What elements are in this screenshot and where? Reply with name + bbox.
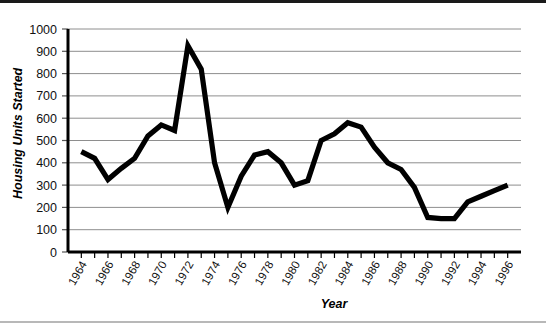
gridlines-group bbox=[68, 29, 521, 230]
line-chart: 01002003004005006007008009001000 1964196… bbox=[0, 3, 546, 323]
x-tick-label: 1994 bbox=[466, 258, 489, 287]
x-tick-label: 1992 bbox=[439, 259, 462, 287]
data-series-line bbox=[81, 46, 507, 219]
y-tick-label: 600 bbox=[36, 112, 57, 126]
y-axis-title: Housing Units Started bbox=[11, 67, 25, 199]
x-tick-label: 1976 bbox=[226, 259, 249, 287]
x-axis-title: Year bbox=[321, 297, 349, 311]
y-tick-label: 200 bbox=[36, 201, 57, 215]
y-tick-label: 100 bbox=[36, 223, 57, 237]
y-tick-labels-group: 01002003004005006007008009001000 bbox=[29, 23, 57, 260]
x-tick-labels-group: 1964196619681970197219741976197819801982… bbox=[66, 258, 516, 287]
x-tick-label: 1978 bbox=[252, 259, 275, 287]
x-tick-label: 1970 bbox=[146, 259, 169, 287]
x-tick-label: 1986 bbox=[359, 259, 382, 287]
x-tick-label: 1982 bbox=[306, 259, 329, 287]
y-tick-label: 300 bbox=[36, 179, 57, 193]
x-tick-label: 1996 bbox=[492, 259, 515, 287]
x-tick-label: 1990 bbox=[412, 259, 435, 287]
x-tick-label: 1984 bbox=[332, 258, 355, 287]
x-tick-label: 1968 bbox=[119, 259, 142, 287]
x-tick-label: 1974 bbox=[199, 258, 222, 287]
x-tick-label: 1988 bbox=[386, 259, 409, 287]
x-tick-label: 1980 bbox=[279, 259, 302, 287]
x-tick-label: 1964 bbox=[66, 258, 89, 287]
y-tick-label: 400 bbox=[36, 156, 57, 170]
x-tick-label: 1966 bbox=[93, 259, 116, 287]
y-tick-label: 1000 bbox=[29, 23, 57, 37]
chart-figure: 01002003004005006007008009001000 1964196… bbox=[0, 0, 546, 323]
y-tick-label: 700 bbox=[36, 89, 57, 103]
y-tick-label: 800 bbox=[36, 67, 57, 81]
x-tick-label: 1972 bbox=[172, 259, 195, 287]
y-tick-label: 0 bbox=[50, 246, 57, 260]
y-tick-label: 500 bbox=[36, 134, 57, 148]
y-tick-label: 900 bbox=[36, 45, 57, 59]
